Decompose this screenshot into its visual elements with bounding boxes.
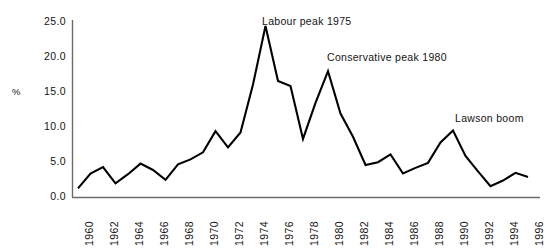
annotation-lawson-boom: Lawson boom	[455, 112, 524, 124]
x-axis-tick-label: 1976	[283, 221, 295, 246]
inflation-series-line	[78, 26, 528, 188]
x-axis-tick-label: 1988	[433, 221, 445, 246]
x-axis-tick-label: 1982	[358, 221, 370, 246]
x-axis-tick-label: 1996	[533, 221, 545, 246]
x-axis-tick-label: 1978	[308, 221, 320, 246]
x-axis-tick-label: 1990	[458, 221, 470, 246]
x-axis-tick-label: 1966	[158, 221, 170, 246]
x-axis-tick-label: 1972	[233, 221, 245, 246]
x-axis-tick-label: 1970	[208, 221, 220, 246]
x-axis-tick-label: 1984	[383, 221, 395, 246]
x-axis-tick-label: 1994	[508, 221, 520, 246]
x-axis-tick-label: 1986	[408, 221, 420, 246]
x-axis-tick-label: 1974	[258, 221, 270, 246]
x-axis-tick-label: 1960	[83, 221, 95, 246]
x-axis-tick-label: 1968	[183, 221, 195, 246]
x-axis-tick-label: 1980	[333, 221, 345, 246]
x-axis-tick-label: 1962	[108, 221, 120, 246]
x-axis-tick-label: 1992	[483, 221, 495, 246]
annotation-labour-peak: Labour peak 1975	[262, 15, 351, 27]
inflation-line-chart: 25.0 20.0 15.0 10.0 5.0 0.0 % 1960196219…	[0, 0, 547, 250]
annotation-conservative-peak: Conservative peak 1980	[327, 51, 447, 63]
plot-area	[0, 0, 547, 250]
x-axis-tick-label: 1964	[133, 221, 145, 246]
